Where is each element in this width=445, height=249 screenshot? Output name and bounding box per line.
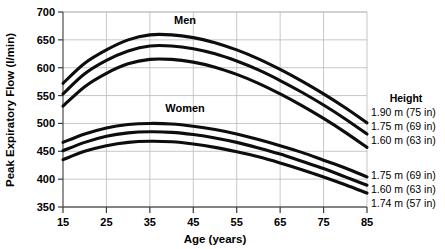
y-tick-label: 350 xyxy=(37,201,55,213)
peak-expiratory-flow-chart: 350400450500550600650700 152535455565758… xyxy=(0,0,445,249)
curve-men-1-90-m-75-in xyxy=(63,34,367,123)
x-axis-tick-labels: 1525354555657585 xyxy=(57,216,373,228)
x-tick-label: 55 xyxy=(231,216,243,228)
y-tick-label: 700 xyxy=(37,6,55,18)
legend-entry-men-1: 1.75 m (69 in) xyxy=(371,120,436,132)
curve-men-1-75-m-69-in xyxy=(63,45,367,134)
y-tick-label: 450 xyxy=(37,145,55,157)
x-tick-label: 65 xyxy=(274,216,286,228)
y-axis-tick-labels: 350400450500550600650700 xyxy=(37,6,55,213)
x-axis-title: Age (years) xyxy=(184,233,247,245)
y-axis-ticks xyxy=(58,12,63,207)
y-tick-label: 600 xyxy=(37,62,55,74)
x-tick-label: 75 xyxy=(317,216,329,228)
women-group-label: Women xyxy=(165,102,205,114)
y-tick-label: 500 xyxy=(37,117,55,129)
x-tick-label: 85 xyxy=(361,216,373,228)
x-tick-label: 45 xyxy=(187,216,199,228)
men-group-label: Men xyxy=(174,14,196,26)
y-tick-label: 550 xyxy=(37,90,55,102)
x-tick-label: 35 xyxy=(144,216,156,228)
legend-entry-women-1: 1.60 m (63 in) xyxy=(371,183,436,195)
legend-entry-women-2: 1.74 m (57 in) xyxy=(371,197,436,209)
y-tick-label: 650 xyxy=(37,34,55,46)
legend-title: Height xyxy=(390,92,423,104)
x-axis-ticks xyxy=(63,207,367,213)
legend-entry-men-0: 1.90 m (75 in) xyxy=(371,106,436,118)
data-curves xyxy=(63,34,367,193)
legend-entry-women-0: 1.75 m (69 in) xyxy=(371,169,436,181)
y-tick-label: 400 xyxy=(37,173,55,185)
legend-entry-men-2: 1.60 m (63 in) xyxy=(371,134,436,146)
y-axis-title: Peak Expiratory Flow (l/min) xyxy=(4,33,16,187)
x-tick-label: 15 xyxy=(57,216,69,228)
x-tick-label: 25 xyxy=(100,216,112,228)
chart-canvas: 350400450500550600650700 152535455565758… xyxy=(0,0,445,249)
